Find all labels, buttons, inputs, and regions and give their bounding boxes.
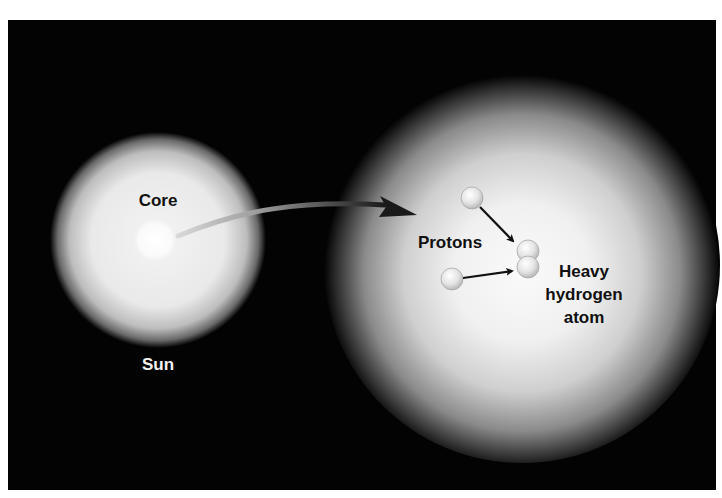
fusion-diagram: Core Sun Protons Heavy hydrogen atom [0, 0, 722, 498]
proton-2-icon [441, 268, 463, 290]
protons-label: Protons [418, 233, 482, 252]
core-label: Core [139, 191, 178, 210]
heavy-hydrogen-label-line3: atom [564, 308, 605, 327]
sun-label: Sun [142, 355, 174, 374]
heavy-hydrogen-label-line2: hydrogen [545, 285, 622, 304]
sun-core-glow [131, 216, 179, 264]
heavy-hydrogen-particle-2-icon [517, 256, 539, 278]
heavy-hydrogen-label-line1: Heavy [559, 262, 610, 281]
proton-1-icon [461, 187, 483, 209]
sun [50, 132, 266, 348]
